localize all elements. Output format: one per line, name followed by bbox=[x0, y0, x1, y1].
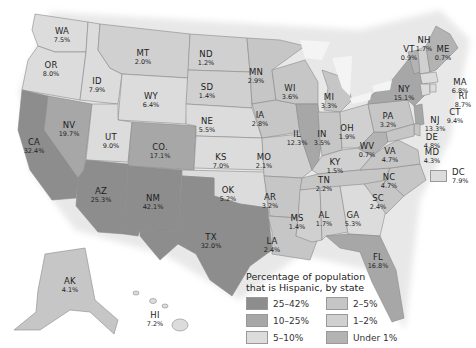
label-ct: CT9.4% bbox=[447, 108, 464, 124]
state-ma[interactable] bbox=[420, 72, 438, 84]
label-nd: ND1.2% bbox=[198, 50, 215, 66]
legend-item-2-5: 2–5% bbox=[326, 297, 426, 310]
legend-item-5-10: 5–10% bbox=[246, 331, 326, 344]
label-wi: WI3.6% bbox=[282, 84, 299, 100]
label-va: VA4.7% bbox=[382, 147, 399, 163]
legend-item-10-25: 10–25% bbox=[246, 314, 326, 327]
label-mo: MO2.1% bbox=[256, 153, 273, 169]
label-tn: TN2.2% bbox=[316, 176, 333, 192]
dc-swatch bbox=[430, 170, 447, 182]
label-oh: OH1.9% bbox=[339, 124, 356, 140]
label-ar: AR3.2% bbox=[262, 193, 279, 209]
dc-key: DC7.9% bbox=[430, 168, 469, 184]
legend-item-1-2: 1–2% bbox=[326, 314, 426, 327]
state-nj[interactable] bbox=[414, 104, 424, 126]
state-de[interactable] bbox=[414, 124, 420, 136]
label-ak: AK4.1% bbox=[62, 277, 79, 293]
state-sd[interactable] bbox=[186, 70, 252, 108]
label-ri: RI8.7% bbox=[455, 92, 472, 108]
label-ia: IA2.8% bbox=[252, 111, 269, 127]
legend-title-line2: that is Hispanic, by state bbox=[246, 282, 446, 293]
label-ks: KS7.0% bbox=[213, 153, 230, 169]
label-ok: OK5.2% bbox=[220, 186, 237, 202]
label-nc: NC4.7% bbox=[381, 173, 398, 189]
label-fl: FL16.8% bbox=[368, 253, 389, 269]
label-mn: MN2.9% bbox=[248, 68, 265, 84]
legend-swatch bbox=[326, 314, 348, 327]
legend-item-under-1: Under 1% bbox=[326, 331, 426, 344]
label-al: AL1.7% bbox=[316, 211, 333, 227]
label-id: ID7.9% bbox=[89, 77, 106, 93]
legend-swatch bbox=[326, 331, 348, 344]
label-mt: MT2.0% bbox=[135, 49, 152, 65]
legend-title-line1: Percentage of population bbox=[246, 271, 446, 282]
legend-swatch bbox=[326, 297, 348, 310]
label-nh: NH1.7% bbox=[416, 36, 433, 52]
label-ut: UT9.0% bbox=[103, 133, 120, 149]
state-ne[interactable] bbox=[186, 104, 262, 138]
legend-swatch bbox=[246, 331, 268, 344]
label-ky: KY1.5% bbox=[327, 158, 344, 174]
label-ne: NE5.5% bbox=[199, 117, 216, 133]
label-hi: HI7.2% bbox=[147, 311, 164, 327]
label-pa: PA3.2% bbox=[380, 112, 397, 128]
legend-swatch bbox=[246, 314, 268, 327]
legend-swatch bbox=[246, 297, 268, 310]
label-me: ME0.7% bbox=[435, 45, 452, 61]
label-tx: TX32.0% bbox=[201, 233, 222, 249]
label-ms: MS1.4% bbox=[289, 214, 306, 230]
label-ny: NY15.1% bbox=[394, 85, 415, 101]
label-nm: NM42.1% bbox=[143, 194, 164, 210]
label-md: MD4.3% bbox=[424, 148, 441, 164]
label-in: IN3.5% bbox=[314, 130, 331, 146]
legend-item-25-42: 25–42% bbox=[246, 297, 326, 310]
label-sc: SC2.4% bbox=[370, 194, 387, 210]
label-az: AZ25.3% bbox=[91, 187, 112, 203]
label-co: CO.17.1% bbox=[150, 143, 171, 159]
label-la: LA2.4% bbox=[264, 237, 281, 253]
label-nj: NJ13.3% bbox=[425, 116, 446, 132]
state-ri[interactable] bbox=[430, 84, 436, 92]
label-sd: SD1.4% bbox=[199, 83, 216, 99]
label-or: OR8.0% bbox=[43, 61, 60, 77]
label-wy: WY6.4% bbox=[143, 92, 160, 108]
legend: Percentage of population that is Hispani… bbox=[246, 271, 446, 344]
label-ga: GA5.3% bbox=[345, 211, 362, 227]
label-mi: MI3.3% bbox=[321, 93, 338, 109]
label-wa: WA7.5% bbox=[54, 27, 71, 43]
label-il: IL12.3% bbox=[287, 130, 308, 146]
label-ca: CA32.4% bbox=[24, 138, 45, 154]
label-nv: NV19.7% bbox=[59, 121, 80, 137]
state-ct[interactable] bbox=[420, 84, 430, 96]
label-wv: WV0.7% bbox=[359, 142, 376, 158]
